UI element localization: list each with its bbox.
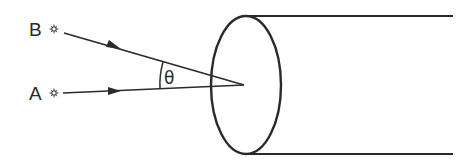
angle-arc (160, 62, 163, 89)
tube-aperture-ellipse (211, 16, 281, 154)
arrowhead-icon (106, 40, 121, 49)
ray-from-b (64, 33, 244, 85)
source-a-label: A (29, 83, 42, 104)
star-source-icon (50, 89, 59, 98)
angle-theta-label: θ (164, 68, 174, 88)
optics-diagram: θ B A (0, 0, 472, 166)
arrowhead-icon (108, 87, 121, 95)
source-b-label: B (29, 19, 42, 40)
ray-from-a (63, 85, 244, 93)
star-source-icon (50, 25, 59, 34)
